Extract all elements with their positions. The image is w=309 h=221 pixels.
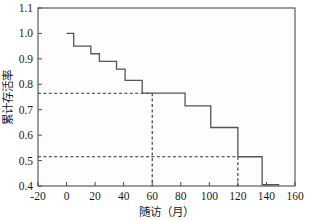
x-tick-label: 160 xyxy=(286,190,304,202)
plot-frame xyxy=(38,8,295,186)
y-tick-label: 1.1 xyxy=(19,2,34,14)
x-tick-label: 0 xyxy=(64,190,70,202)
x-tick-label: 120 xyxy=(229,190,247,202)
y-tick-label: 0.9 xyxy=(19,53,34,65)
y-tick-label: 1.0 xyxy=(19,27,34,39)
x-tick-label: 140 xyxy=(258,190,276,202)
x-tick-label: -20 xyxy=(30,190,46,202)
x-tick-label: 100 xyxy=(201,190,219,202)
survival-chart-figure: 0.40.50.60.70.80.91.01.1 -20020406080100… xyxy=(0,0,309,221)
x-axis-tick-labels: -20020406080100120140160 xyxy=(30,190,304,202)
y-tick-label: 0.6 xyxy=(19,129,34,141)
x-axis-title: 随访（月） xyxy=(139,205,194,218)
y-tick-label: 0.7 xyxy=(19,104,34,116)
x-tick-label: 60 xyxy=(146,190,158,202)
x-tick-label: 20 xyxy=(89,190,101,202)
y-axis-title: 累计存活率 xyxy=(1,70,14,125)
y-axis-tick-labels: 0.40.50.60.70.80.91.01.1 xyxy=(19,2,34,192)
y-tick-label: 0.5 xyxy=(19,155,34,167)
x-tick-label: 80 xyxy=(175,190,187,202)
x-tick-label: 40 xyxy=(118,190,130,202)
chart-canvas: 0.40.50.60.70.80.91.01.1 -20020406080100… xyxy=(0,0,309,221)
y-tick-label: 0.8 xyxy=(19,78,34,90)
